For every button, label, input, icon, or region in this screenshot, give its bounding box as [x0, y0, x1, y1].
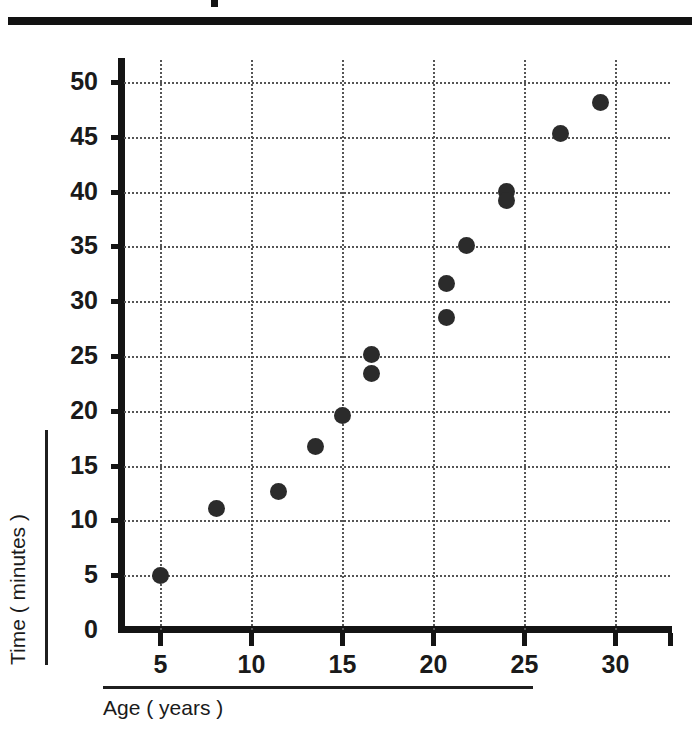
data-point — [458, 237, 475, 254]
gridline-horizontal — [124, 246, 670, 248]
y-axis-tick — [111, 573, 124, 578]
gridline-vertical — [615, 60, 617, 630]
y-axis-tick-label: 20 — [52, 398, 98, 423]
y-axis-tick — [111, 299, 124, 304]
gridline-vertical — [160, 60, 162, 630]
data-point — [363, 346, 380, 363]
x-axis-title-group: Age ( years ) — [103, 686, 533, 721]
data-point — [208, 500, 225, 517]
y-axis-tick — [111, 80, 124, 85]
y-axis-tick-label: 0 — [52, 617, 98, 642]
data-point — [552, 125, 569, 142]
x-axis-tick-label: 15 — [316, 652, 368, 677]
data-point — [438, 309, 455, 326]
y-axis-title-rule — [45, 430, 48, 665]
gridline-horizontal — [124, 411, 670, 413]
gridline-horizontal — [124, 137, 670, 139]
y-axis-tick — [111, 135, 124, 140]
plot-area — [124, 60, 670, 630]
x-axis-tick-label: 30 — [589, 652, 641, 677]
x-axis-end-tick — [668, 633, 673, 646]
data-point — [152, 567, 169, 584]
gridline-vertical — [251, 60, 253, 630]
x-axis-tick — [158, 633, 163, 646]
x-axis-tick-label: 5 — [134, 652, 186, 677]
x-axis-tick — [431, 633, 436, 646]
data-point — [270, 483, 287, 500]
y-axis-tick — [111, 409, 124, 414]
x-axis-tick — [613, 633, 618, 646]
gridline-horizontal — [124, 301, 670, 303]
x-axis-tick-label: 25 — [498, 652, 550, 677]
x-axis-tick — [522, 633, 527, 646]
y-axis-tick — [111, 190, 124, 195]
cropped-title-fragment — [211, 0, 218, 7]
y-axis-tick-label: 25 — [52, 343, 98, 368]
gridline-horizontal — [124, 82, 670, 84]
x-axis-tick-label: 10 — [225, 652, 277, 677]
gridline-horizontal — [124, 520, 670, 522]
gridline-horizontal — [124, 575, 670, 577]
x-axis-tick — [340, 633, 345, 646]
data-point — [363, 365, 380, 382]
gridline-vertical — [433, 60, 435, 630]
data-point — [334, 407, 351, 424]
y-axis-tick-label: 30 — [52, 288, 98, 313]
data-point — [498, 192, 515, 209]
y-axis-tick-label: 10 — [52, 507, 98, 532]
y-axis-tick — [111, 464, 124, 469]
y-axis-tick — [111, 244, 124, 249]
y-axis-tick — [111, 518, 124, 523]
y-axis-title: Time ( minutes ) — [7, 514, 28, 665]
gridline-horizontal — [124, 466, 670, 468]
y-axis-tick-label: 15 — [52, 453, 98, 478]
gridline-horizontal — [124, 192, 670, 194]
gridline-vertical — [342, 60, 344, 630]
y-axis-tick-label: 45 — [52, 124, 98, 149]
data-point — [592, 94, 609, 111]
y-axis-tick-label: 5 — [52, 562, 98, 587]
data-point — [307, 438, 324, 455]
x-axis-tick-label: 20 — [407, 652, 459, 677]
gridline-vertical — [524, 60, 526, 630]
gridline-horizontal — [124, 356, 670, 358]
y-axis-tick — [111, 354, 124, 359]
data-point — [438, 275, 455, 292]
y-axis-tick-label: 35 — [52, 233, 98, 258]
header-rule — [8, 17, 692, 25]
y-axis-tick-label: 50 — [52, 69, 98, 94]
y-axis-tick-label: 40 — [52, 179, 98, 204]
x-axis-tick — [249, 633, 254, 646]
x-axis-title: Age ( years ) — [103, 689, 533, 721]
